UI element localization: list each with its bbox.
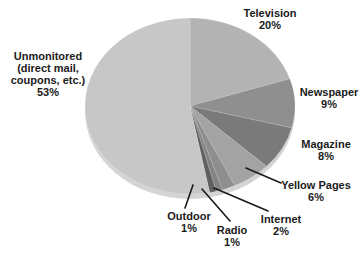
- label-magazine-pct: 8%: [301, 150, 351, 162]
- label-internet-pct: 2%: [261, 225, 301, 237]
- label-television-pct: 20%: [244, 19, 297, 31]
- label-internet-name: Internet: [261, 213, 301, 225]
- label-unmonitored-line3: coupons, etc.): [11, 74, 86, 86]
- label-outdoor-pct: 1%: [167, 222, 210, 234]
- label-internet: Internet 2%: [261, 213, 301, 237]
- label-newspaper-name: Newspaper: [300, 86, 359, 98]
- label-unmonitored: Unmonitored (direct mail, coupons, etc.)…: [11, 50, 86, 98]
- label-newspaper: Newspaper 9%: [300, 86, 359, 110]
- label-radio: Radio 1%: [217, 224, 248, 248]
- label-magazine-name: Magazine: [301, 138, 351, 150]
- label-unmonitored-line2: (direct mail,: [11, 62, 86, 74]
- label-television-name: Television: [244, 7, 297, 19]
- label-yellow-pages-pct: 6%: [281, 191, 351, 203]
- label-outdoor-name: Outdoor: [167, 210, 210, 222]
- label-television: Television 20%: [244, 7, 297, 31]
- label-newspaper-pct: 9%: [300, 98, 359, 110]
- label-radio-name: Radio: [217, 224, 248, 236]
- pie-chart-figure: Television 20% Newspaper 9% Magazine 8% …: [0, 0, 361, 255]
- label-unmonitored-pct: 53%: [11, 86, 86, 98]
- label-magazine: Magazine 8%: [301, 138, 351, 162]
- label-outdoor: Outdoor 1%: [167, 210, 210, 234]
- pie-slices: [85, 18, 295, 194]
- label-yellow-pages-name: Yellow Pages: [281, 179, 351, 191]
- leader-line-internet: [214, 188, 268, 211]
- label-yellow-pages: Yellow Pages 6%: [281, 179, 351, 203]
- label-unmonitored-line1: Unmonitored: [11, 50, 86, 62]
- label-radio-pct: 1%: [217, 236, 248, 248]
